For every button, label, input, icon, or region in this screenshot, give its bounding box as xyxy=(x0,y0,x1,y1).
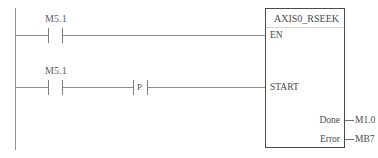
rung2-wire-p-to-start xyxy=(147,87,266,88)
rung1-wire-rail-to-contact xyxy=(15,35,48,36)
contact-label-rung2: M5.1 xyxy=(45,65,67,76)
contact-bar-left xyxy=(48,28,49,43)
rung2-wire-rail-to-contact xyxy=(15,87,48,88)
ladder-diagram-canvas: M5.1 M5.1 P AXIS0_RSEEK EN START Done Er… xyxy=(0,0,378,158)
positive-edge-label: P xyxy=(137,83,142,92)
input-pin-start-label: START xyxy=(270,83,299,93)
rung1-wire-contact-to-en xyxy=(62,35,266,36)
contact-no-m5-1-rung1[interactable] xyxy=(48,28,63,43)
output-pin-error-label: Error xyxy=(266,135,340,145)
contact-positive-edge-p[interactable]: P xyxy=(133,80,148,95)
rung2-wire-contact-to-p xyxy=(62,87,133,88)
output-operand-error[interactable]: MB7 xyxy=(355,135,375,145)
contact-no-m5-1-rung2[interactable] xyxy=(48,80,63,95)
left-power-rail xyxy=(15,8,16,150)
output-operand-done[interactable]: M1.0 xyxy=(355,116,375,126)
input-pin-en-label: EN xyxy=(270,31,283,41)
contact-label-rung1: M5.1 xyxy=(45,13,67,24)
output-stub-done xyxy=(345,120,354,121)
function-block-axis0-rseek[interactable] xyxy=(265,8,345,148)
output-pin-done-label: Done xyxy=(266,116,340,126)
function-block-title-divider xyxy=(266,27,344,28)
function-block-title: AXIS0_RSEEK xyxy=(274,14,339,24)
contact-bar-left xyxy=(48,80,49,95)
output-stub-error xyxy=(345,139,354,140)
contact-bar-left xyxy=(133,80,134,95)
